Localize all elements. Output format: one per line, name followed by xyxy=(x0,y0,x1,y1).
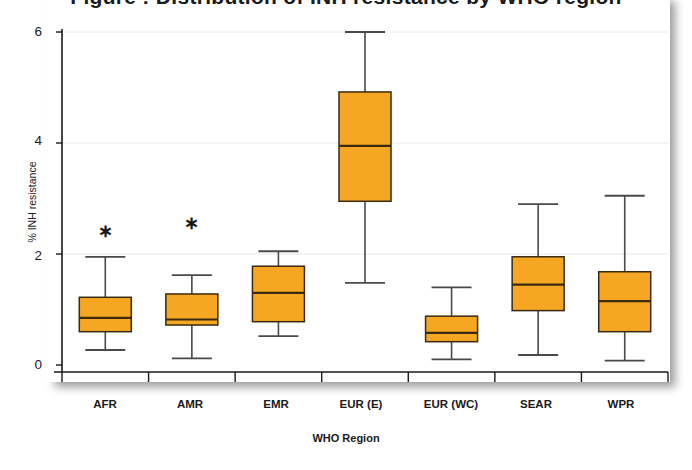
box-iqr xyxy=(252,266,304,322)
figure-container: Figure : Distribution of INH resistance … xyxy=(0,0,692,470)
boxplot-eur-wc xyxy=(426,287,478,359)
xtick-label-wpr: WPR xyxy=(581,398,661,410)
boxplot-afr: ∗ xyxy=(79,221,131,350)
chart-title-clipped: Figure : Distribution of INH resistance … xyxy=(0,0,692,8)
box-iqr xyxy=(79,297,131,331)
xtick-label-eur-e: EUR (E) xyxy=(321,398,401,410)
xtick-label-emr: EMR xyxy=(236,398,316,410)
boxplot-emr xyxy=(252,251,304,336)
boxes-group: ∗∗ xyxy=(79,32,650,361)
outlier-asterisk-marker: ∗ xyxy=(184,213,199,233)
xtick-label-eur-wc: EUR (WC) xyxy=(406,398,496,410)
y-axis-label: % INH resistance xyxy=(26,132,38,272)
xtick-label-afr: AFR xyxy=(65,398,145,410)
boxplot-wpr xyxy=(599,196,651,361)
xtick-label-sear: SEAR xyxy=(496,398,576,410)
boxplot-sear xyxy=(512,204,564,355)
axes-group xyxy=(54,29,668,382)
x-axis-label: WHO Region xyxy=(0,432,692,444)
box-iqr xyxy=(426,316,478,342)
xtick-label-amr: AMR xyxy=(150,398,230,410)
boxplot-eur-e xyxy=(339,32,391,283)
boxplot-amr: ∗ xyxy=(166,213,218,358)
ytick-label-0: 0 xyxy=(22,357,42,372)
ytick-label-6: 6 xyxy=(22,24,42,39)
chart-title-text: Figure : Distribution of INH resistance … xyxy=(70,0,621,8)
outlier-asterisk-marker: ∗ xyxy=(98,221,113,241)
